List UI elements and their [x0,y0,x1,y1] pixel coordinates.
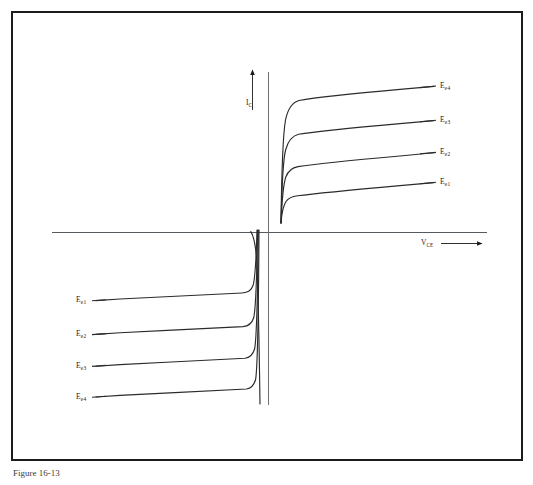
curve-label-subscript: e3 [445,119,451,125]
curve-label-subscript: e4 [81,396,87,402]
curve-label-upper-Ee1: Ee1 [440,178,450,186]
x-axis-label-sub: CE [426,242,433,248]
curve-label-subscript: e1 [81,299,87,305]
curve-label-subscript: e1 [445,181,451,187]
figure-border [11,11,523,461]
figure-caption: Figure 16-13 [13,468,60,482]
curve-label-lower-Ee1: Ee1 [76,296,86,304]
curve-label-subscript: e2 [445,151,451,157]
curve-label-upper-Ee2: Ee2 [440,148,450,156]
y-axis-label: IC [246,99,252,107]
x-axis-label: VCE [421,239,433,247]
curve-label-lower-Ee4: Ee4 [76,393,86,401]
curve-label-upper-Ee3: Ee3 [440,116,450,124]
y-axis-label-sub: C [249,102,253,108]
curve-label-lower-Ee3: Ee3 [76,362,86,370]
figure-root: IC VCE Ee4 Ee3 Ee2 Ee1 Ee1 Ee2 Ee3 Ee4 F… [0,0,533,485]
curve-label-subscript: e2 [81,333,87,339]
curve-label-subscript: e4 [445,85,451,91]
curve-label-subscript: e3 [81,365,87,371]
curve-label-lower-Ee2: Ee2 [76,330,86,338]
curve-label-upper-Ee4: Ee4 [440,82,450,90]
